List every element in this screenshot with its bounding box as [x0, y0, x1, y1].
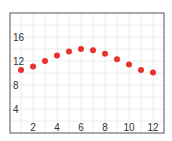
x-axis-tick-labels: 24681012 — [30, 122, 159, 133]
data-point — [54, 53, 60, 59]
y-tick-label: 4 — [13, 104, 19, 115]
data-point — [90, 47, 96, 53]
data-point — [138, 67, 144, 73]
x-tick-label: 10 — [123, 122, 135, 133]
x-tick-label: 2 — [30, 122, 36, 133]
y-tick-label: 12 — [13, 56, 25, 67]
data-point — [30, 63, 36, 69]
grid-lines — [10, 13, 164, 133]
data-point — [18, 67, 24, 73]
data-point — [78, 46, 84, 52]
y-tick-label: 8 — [13, 80, 19, 91]
x-tick-label: 6 — [78, 122, 84, 133]
data-point — [42, 58, 48, 64]
data-point — [126, 62, 132, 68]
data-point — [102, 51, 108, 57]
data-point — [66, 48, 72, 54]
y-tick-label: 16 — [13, 32, 25, 43]
scatter-chart: 481216 24681012 — [0, 0, 172, 141]
x-tick-label: 12 — [147, 122, 159, 133]
data-point — [150, 69, 156, 75]
data-point — [114, 56, 120, 62]
x-tick-label: 8 — [102, 122, 108, 133]
x-tick-label: 4 — [54, 122, 60, 133]
